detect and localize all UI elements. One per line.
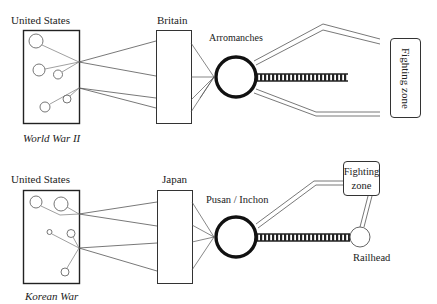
ww2-destination-label: Fighting zone (399, 48, 413, 109)
ww2-diagram (24, 24, 381, 124)
ww2-fighting-zone-box: Fighting zone (390, 38, 421, 118)
ww2-origin-label: United States (11, 15, 70, 26)
korea-port-pusan-inchon (216, 217, 256, 257)
korea-port-label: Pusan / Inchon (206, 195, 268, 206)
korea-destination-line1: Fighting (344, 165, 380, 178)
ww2-britain-box (157, 31, 192, 124)
ww2-railway (256, 74, 348, 81)
ww2-intermediate-label: Britain (157, 15, 188, 26)
korea-diagram (24, 181, 373, 284)
ww2-us-depots (29, 34, 71, 112)
korea-railhead-node (350, 227, 370, 247)
korea-pacific-routes (79, 202, 157, 271)
korea-origin-label: United States (11, 174, 70, 185)
korea-strait-routes (192, 202, 214, 270)
ww2-port-arromanches (216, 57, 256, 97)
ww2-roads (254, 24, 380, 116)
korea-railhead-label: Railhead (353, 253, 390, 264)
ww2-transatlantic-routes (79, 41, 156, 108)
ww2-port-label: Arromanches (209, 33, 263, 43)
korea-intermediate-label: Japan (162, 174, 187, 185)
korea-japan-box (158, 191, 193, 284)
ww2-caption: World War II (23, 133, 80, 144)
ww2-channel-routes (191, 43, 214, 112)
korea-railway (256, 234, 350, 241)
korea-caption: Korean War (25, 291, 78, 302)
korea-us-internal-lines (41, 206, 79, 268)
korea-fighting-zone-box: Fighting zone (343, 161, 380, 196)
korea-destination-line2: zone (352, 179, 372, 192)
